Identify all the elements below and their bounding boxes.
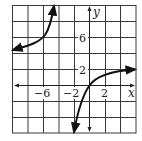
x-axis-label: x	[128, 86, 135, 100]
x-tick-label-neg2: −2	[63, 87, 79, 100]
function-graph: −6 −2 2 6 2 x y	[0, 0, 142, 141]
y-axis-label: y	[92, 5, 100, 19]
x-tick-label-2: 2	[101, 87, 108, 100]
curve-right-branch	[74, 70, 135, 133]
y-tick-label-6: 6	[79, 32, 86, 45]
curve-left-branch	[13, 6, 54, 50]
grid	[13, 6, 137, 134]
x-tick-label-neg6: −6	[34, 87, 50, 100]
y-tick-label-2: 2	[79, 64, 86, 77]
